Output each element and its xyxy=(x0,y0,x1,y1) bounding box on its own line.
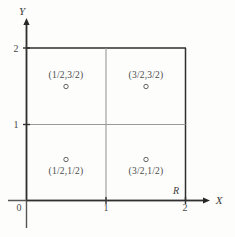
data-point-label: (3/2,1/2) xyxy=(129,166,164,177)
y-tick-label-2: 2 xyxy=(14,43,19,54)
data-point-upper-right: (3/2,3/2) xyxy=(129,70,164,89)
math-figure-region-r: Y X 2 1 0 1 2 R (1/2,3/2) (3/2,3/2) (1/2… xyxy=(0,0,235,237)
point-marker-icon xyxy=(64,84,68,88)
arrow-up-icon xyxy=(23,18,29,25)
x-axis-label: X xyxy=(215,194,224,206)
x-tick-label-1: 1 xyxy=(104,202,109,213)
origin-tick-label: 0 xyxy=(17,202,22,213)
point-marker-icon xyxy=(64,157,68,161)
x-tick-label-2: 2 xyxy=(183,202,188,213)
point-marker-icon xyxy=(144,157,148,161)
data-point-label: (1/2,1/2) xyxy=(49,166,84,177)
data-point-label: (1/2,3/2) xyxy=(49,70,84,81)
data-point-upper-left: (1/2,3/2) xyxy=(49,70,84,89)
data-point-label: (3/2,3/2) xyxy=(129,70,164,81)
data-point-lower-left: (1/2,1/2) xyxy=(49,157,84,177)
arrow-right-icon xyxy=(203,197,210,203)
axes-group xyxy=(8,18,210,228)
region-label-r: R xyxy=(172,185,179,196)
y-tick-label-1: 1 xyxy=(14,119,19,130)
data-point-lower-right: (3/2,1/2) xyxy=(129,157,164,177)
point-marker-icon xyxy=(144,84,148,88)
y-axis-label: Y xyxy=(19,5,27,17)
